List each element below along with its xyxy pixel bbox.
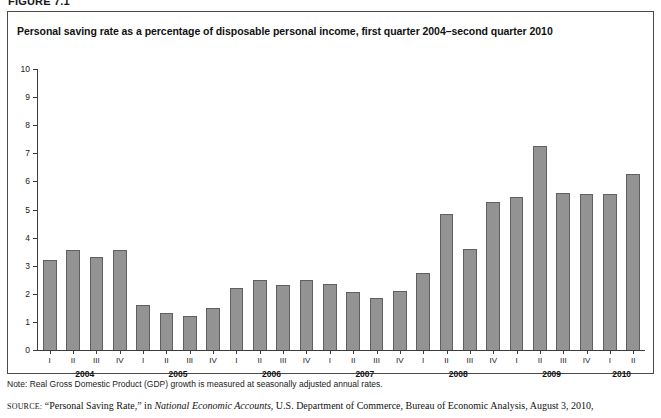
y-tick-label: 1: [25, 317, 30, 327]
bar: [370, 298, 384, 350]
y-tick-label: 8: [25, 120, 30, 130]
y-tick-mark: [33, 97, 37, 98]
y-tick-mark: [33, 322, 37, 323]
bar: [323, 284, 337, 350]
x-tick-mark: [120, 351, 121, 354]
y-tick-mark: [33, 350, 37, 351]
y-tick-mark: [33, 266, 37, 267]
x-tick-mark: [236, 351, 237, 354]
y-tick-mark: [33, 125, 37, 126]
year-label: 2005: [169, 369, 188, 379]
bar: [346, 292, 360, 350]
x-tick-mark: [143, 351, 144, 354]
y-tick-label: 9: [25, 92, 30, 102]
quarter-label: I: [49, 356, 51, 365]
y-tick-label: 10: [21, 64, 30, 74]
quarter-label: III: [467, 356, 474, 365]
bar: [113, 250, 127, 350]
y-tick-label: 4: [25, 233, 30, 243]
x-tick-mark: [353, 351, 354, 354]
quarter-label: I: [235, 356, 237, 365]
bar: [253, 280, 267, 350]
quarter-label: I: [422, 356, 424, 365]
quarter-label: III: [280, 356, 287, 365]
x-tick-mark: [96, 351, 97, 354]
quarter-label: IV: [116, 356, 124, 365]
x-tick-mark: [377, 351, 378, 354]
quarter-label: I: [329, 356, 331, 365]
x-tick-mark: [283, 351, 284, 354]
bar: [206, 308, 220, 350]
y-tick-mark: [33, 294, 37, 295]
quarter-label: II: [164, 356, 168, 365]
x-axis-line: [37, 350, 645, 351]
figure-note: Note: Real Gross Domestic Product (GDP) …: [7, 379, 383, 389]
y-tick-label: 0: [25, 345, 30, 355]
source-text-part2: , U.S. Department of Commerce, Bureau of…: [271, 400, 594, 411]
quarter-label: I: [609, 356, 611, 365]
bar: [556, 193, 570, 350]
bar: [90, 257, 104, 350]
bar: [603, 194, 617, 350]
figure-number-label: FIGURE 7.1: [8, 0, 70, 7]
quarter-label: III: [93, 356, 100, 365]
y-tick-mark: [33, 210, 37, 211]
quarter-label: II: [71, 356, 75, 365]
x-tick-mark: [470, 351, 471, 354]
x-axis-quarter-labels: IIIIIIIVIIIIIIIVIIIIIIIVIIIIIIIVIIIIIIIV…: [37, 353, 645, 367]
quarter-label: II: [444, 356, 448, 365]
x-tick-mark: [330, 351, 331, 354]
source-text-part1: “Personal Saving Rate,” in: [42, 400, 154, 411]
quarter-label: IV: [209, 356, 217, 365]
year-label: 2006: [262, 369, 281, 379]
source-publication-title: National Economic Accounts: [154, 400, 270, 411]
x-tick-mark: [447, 351, 448, 354]
quarter-label: I: [142, 356, 144, 365]
x-tick-mark: [517, 351, 518, 354]
y-tick-label: 6: [25, 176, 30, 186]
quarter-label: IV: [303, 356, 311, 365]
x-tick-mark: [190, 351, 191, 354]
year-label: 2008: [449, 369, 468, 379]
quarter-label: IV: [489, 356, 497, 365]
bar: [43, 260, 57, 350]
x-tick-mark: [563, 351, 564, 354]
bar: [416, 273, 430, 350]
x-tick-mark: [540, 351, 541, 354]
bar: [486, 202, 500, 350]
bar: [300, 280, 314, 350]
year-label: 2009: [542, 369, 561, 379]
x-tick-mark: [306, 351, 307, 354]
quarter-label: IV: [396, 356, 404, 365]
bar: [136, 305, 150, 350]
quarter-label: IV: [583, 356, 591, 365]
quarter-label: II: [538, 356, 542, 365]
y-tick-mark: [33, 181, 37, 182]
x-tick-mark: [493, 351, 494, 354]
quarter-label: III: [186, 356, 193, 365]
bar: [626, 174, 640, 350]
y-tick-mark: [33, 153, 37, 154]
quarter-label: II: [351, 356, 355, 365]
quarter-label: III: [560, 356, 567, 365]
y-tick-label: 2: [25, 289, 30, 299]
x-tick-mark: [213, 351, 214, 354]
bar: [276, 285, 290, 350]
figure-source: SOURCE: “Personal Saving Rate,” in Natio…: [7, 400, 594, 411]
y-tick-label: 3: [25, 261, 30, 271]
y-tick-label: 7: [25, 148, 30, 158]
x-tick-mark: [610, 351, 611, 354]
bar: [580, 194, 594, 350]
x-tick-mark: [260, 351, 261, 354]
year-label: 2010: [612, 369, 631, 379]
quarter-label: III: [373, 356, 380, 365]
bar: [440, 214, 454, 350]
bar: [66, 250, 80, 350]
bar: [183, 316, 197, 350]
x-tick-mark: [587, 351, 588, 354]
bar: [160, 313, 174, 350]
x-tick-mark: [50, 351, 51, 354]
source-prefix: SOURCE:: [7, 402, 42, 411]
year-label: 2007: [355, 369, 374, 379]
plot-area: 012345678910: [37, 69, 645, 351]
